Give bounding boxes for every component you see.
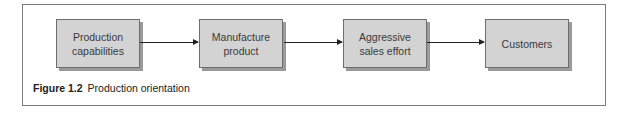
node-label-line: product [212,44,270,58]
node-label-line: capabilities [72,44,124,58]
node-manufacture-product: Manufacture product [199,19,283,68]
node-customers: Customers [485,19,569,68]
figure-title: Production orientation [88,82,190,94]
arrow-right-icon [140,42,198,43]
node-production-capabilities: Production capabilities [56,19,140,68]
node-aggressive-sales-effort: Aggressive sales effort [343,19,427,68]
arrow-right-icon [427,42,484,43]
node-label-line: Aggressive [359,30,411,44]
node-label-line: Manufacture [212,30,270,44]
node-label-line: sales effort [359,44,411,58]
node-label-line: Production [72,30,124,44]
arrow-right-icon [284,42,342,43]
figure-number: Figure 1.2 [33,82,83,94]
node-label-line: Customers [502,37,553,51]
figure-caption: Figure 1.2Production orientation [33,82,190,94]
